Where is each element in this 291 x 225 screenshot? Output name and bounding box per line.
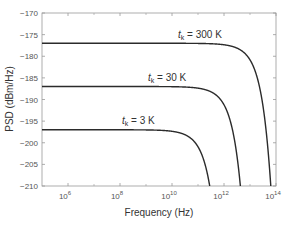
x-tick-label: 108 [111, 190, 124, 201]
y-tick-label: −195 [20, 117, 39, 126]
x-tick-label: 1012 [213, 190, 229, 201]
y-tick-label: −175 [20, 31, 39, 40]
plot-border [42, 13, 276, 186]
x-tick-label: 1014 [265, 190, 281, 201]
psd-chart: −170−175−180−185−190−195−200−205−210 106… [0, 0, 291, 225]
y-tick-label: −190 [20, 96, 39, 105]
psd-curve-2 [42, 130, 210, 186]
y-tick-label: −170 [20, 9, 39, 18]
x-tick-label: 1010 [161, 190, 177, 201]
curve-label-2: tk = 3 K [122, 115, 155, 127]
psd-curve-1 [42, 87, 240, 186]
y-tick-label: −185 [20, 74, 39, 83]
y-tick-label: −180 [20, 52, 39, 61]
y-tick-label: −205 [20, 160, 39, 169]
curves [42, 43, 271, 186]
y-tick-label: −210 [20, 182, 39, 191]
y-axis-title: PSD (dBm/Hz) [4, 66, 15, 132]
x-axis: 106108101010121014 [59, 13, 282, 201]
x-tick-label: 106 [59, 190, 72, 201]
plot-frame [42, 13, 276, 186]
x-axis-title: Frequency (Hz) [125, 207, 194, 218]
curve-label-0: tk = 300 K [178, 29, 222, 41]
psd-curve-0 [42, 43, 271, 186]
y-tick-label: −200 [20, 139, 39, 148]
curve-label-1: tk = 30 K [148, 72, 187, 84]
